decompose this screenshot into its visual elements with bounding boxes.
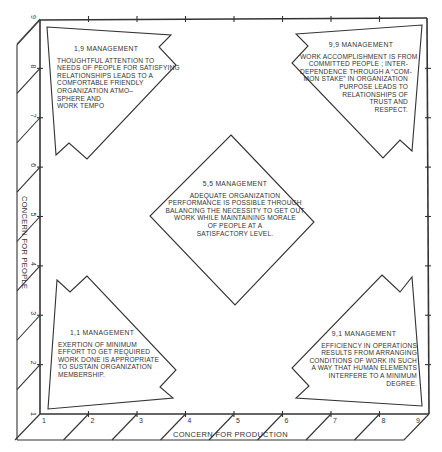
description-line: RESULTS FROM ARRANGING — [305, 349, 417, 357]
x-axis-tick-label: 9 — [416, 417, 420, 424]
x-axis-tick-label: 1 — [42, 417, 46, 424]
x-axis-strip-divider — [15, 414, 40, 440]
description-line: EFFORT TO GET REQUIRED — [58, 348, 158, 356]
description-line: ADEQUATE ORGANIZATION — [160, 192, 310, 200]
style-1-1-description: EXERTION OF MINIMUMEFFORT TO GET REQUIRE… — [58, 341, 158, 379]
description-line: INTERFERE TO A MINIMUM — [305, 372, 417, 380]
style-5-5-title: 5,5 MANAGEMENT — [160, 180, 310, 188]
description-line: PERFORMANCE IS POSSIBLE THROUGH — [160, 199, 310, 207]
x-axis-strip-divider — [306, 414, 331, 440]
description-line: TRUST AND — [300, 98, 408, 106]
description-line: RELATIONSHIPS LEADS TO A — [57, 72, 167, 80]
x-axis-tick-label: 6 — [285, 417, 289, 424]
description-line: BALANCING THE NECESSITY TO GET OUT — [160, 207, 310, 215]
description-line: THOUGHTFUL ATTENTION TO — [57, 57, 167, 65]
description-line: CONDITIONS OF WORK IN SUCH — [305, 357, 417, 365]
description-line: ORGANIZATION ATMO– — [57, 87, 167, 95]
description-line: MEMBERSHIP. — [58, 371, 158, 379]
x-axis-tick-label: 3 — [139, 417, 143, 424]
style-9-9-title: 9,9 MANAGEMENT — [300, 41, 408, 49]
style-1-9-description: THOUGHTFUL ATTENTION TONEEDS OF PEOPLE F… — [57, 57, 167, 110]
description-line: COMMITTED PEOPLE ; INTER- — [300, 60, 408, 68]
style-9-1-description: EFFICIENCY IN OPERATIONSRESULTS FROM ARR… — [305, 342, 417, 388]
style-5-5-text: 5,5 MANAGEMENT ADEQUATE ORGANIZATIONPERF… — [160, 180, 310, 237]
description-line: DEPENDENCE THROUGH A “COM- — [300, 68, 408, 76]
y-axis-tick-label: 4 — [30, 262, 37, 266]
y-axis-tick-label: 6 — [30, 163, 37, 167]
x-axis-tick-label: 8 — [382, 417, 386, 424]
x-axis-strip-divider — [355, 414, 380, 440]
y-axis-strip-divider — [17, 315, 40, 340]
description-line: RELATIONSHIPS OF — [300, 91, 408, 99]
x-axis-strip-divider — [112, 414, 137, 440]
y-axis-strip-divider — [17, 118, 40, 143]
x-axis-title: CONCERN FOR PRODUCTION — [173, 430, 288, 439]
description-line: NEEDS OF PEOPLE FOR SATISFYING — [57, 64, 167, 72]
y-axis-strip-divider — [17, 68, 40, 93]
style-1-9-text: 1,9 MANAGEMENT THOUGHTFUL ATTENTION TONE… — [57, 45, 167, 110]
description-line: EXERTION OF MINIMUM — [58, 341, 158, 349]
x-axis-tick-label: 7 — [333, 417, 337, 424]
style-1-9-title: 1,9 MANAGEMENT — [57, 45, 167, 53]
description-line: WORK TEMPO — [57, 102, 167, 110]
style-1-1-text: 1,1 MANAGEMENT EXERTION OF MINIMUMEFFORT… — [58, 329, 158, 379]
description-line: SATISFACTORY LEVEL. — [160, 230, 310, 238]
y-axis-strip-divider — [17, 167, 40, 192]
description-line: PURPOSE LEADS TO — [300, 83, 408, 91]
y-axis-tick-label: 3 — [30, 311, 37, 315]
y-axis-tick-label: 1 — [30, 412, 37, 416]
style-1-1-title: 1,1 MANAGEMENT — [58, 329, 158, 337]
description-line: COMFORTABLE FRIENDLY — [57, 79, 167, 87]
description-line: TO SUSTAIN ORGANIZATION — [58, 363, 158, 371]
y-axis-strip-divider — [17, 19, 40, 44]
y-axis-tick-label: 2 — [30, 361, 37, 365]
style-9-9-description: WORK ACCOMPLISHMENT IS FROMCOMMITTED PEO… — [300, 53, 408, 114]
y-axis-tick-label: 8 — [30, 64, 37, 68]
description-line: WORK ACCOMPLISHMENT IS FROM — [300, 53, 408, 61]
y-axis-tick-label: 5 — [30, 213, 37, 217]
x-axis-tick-label: 4 — [188, 417, 192, 424]
x-axis-tick-label: 2 — [91, 417, 95, 424]
description-line: A WAY THAT HUMAN ELEMENTS — [305, 364, 417, 372]
description-line: SPHERE AND — [57, 95, 167, 103]
y-axis-tick-label: 7 — [30, 114, 37, 118]
style-5-5-description: ADEQUATE ORGANIZATIONPERFORMANCE IS POSS… — [160, 192, 310, 238]
style-9-1-title: 9,1 MANAGEMENT — [305, 330, 417, 338]
description-line: OF PEOPLE AT A — [160, 222, 310, 230]
x-axis-strip-divider — [64, 414, 89, 440]
description-line: DEGREE. — [305, 380, 417, 388]
description-line: WORK WHILE MAINTAINING MORALE — [160, 214, 310, 222]
style-9-9-text: 9,9 MANAGEMENT WORK ACCOMPLISHMENT IS FR… — [300, 41, 408, 113]
description-line: MON STAKE” IN ORGANIZATION — [300, 75, 408, 83]
description-line: EFFICIENCY IN OPERATIONS — [305, 342, 417, 350]
y-axis-title: CONCERN FOR PEOPLE — [20, 196, 29, 289]
description-line: RESPECT. — [300, 106, 408, 114]
x-axis-tick-label: 5 — [236, 417, 240, 424]
y-axis-strip-divider — [17, 365, 40, 390]
y-axis-tick-label: 9 — [30, 15, 37, 19]
style-9-1-text: 9,1 MANAGEMENT EFFICIENCY IN OPERATIONSR… — [305, 330, 417, 387]
description-line: WORK DONE IS APPROPRIATE — [58, 356, 158, 364]
